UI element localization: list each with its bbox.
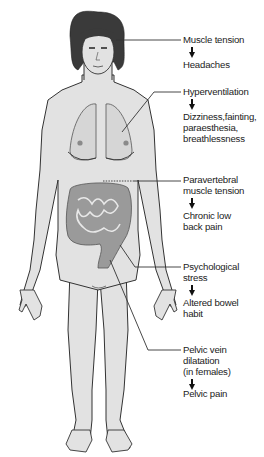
label-bowel-habit: Altered bowel habit <box>183 297 239 319</box>
label-headaches: Headaches <box>183 59 230 70</box>
label-back-pain: Chronic low back pain <box>183 210 231 232</box>
head <box>70 11 124 74</box>
label-pelvic-vein: Pelvic vein dilatation (in females) <box>183 344 231 377</box>
label-paravertebral: Paravertebral muscle tension <box>183 174 244 196</box>
hands <box>19 290 177 320</box>
label-muscle-tension: Muscle tension <box>183 34 244 45</box>
label-hyperventilation: Hyperventilation <box>183 86 249 97</box>
feet <box>66 430 132 452</box>
label-psych-stress: Psychological stress <box>183 261 239 283</box>
nipple-right <box>123 140 128 145</box>
label-pelvic-pain: Pelvic pain <box>183 388 227 399</box>
label-dizziness: Dizziness,fainting, paraesthesia, breath… <box>183 111 257 144</box>
nipple-left <box>77 140 82 145</box>
body-silhouette <box>20 58 176 450</box>
